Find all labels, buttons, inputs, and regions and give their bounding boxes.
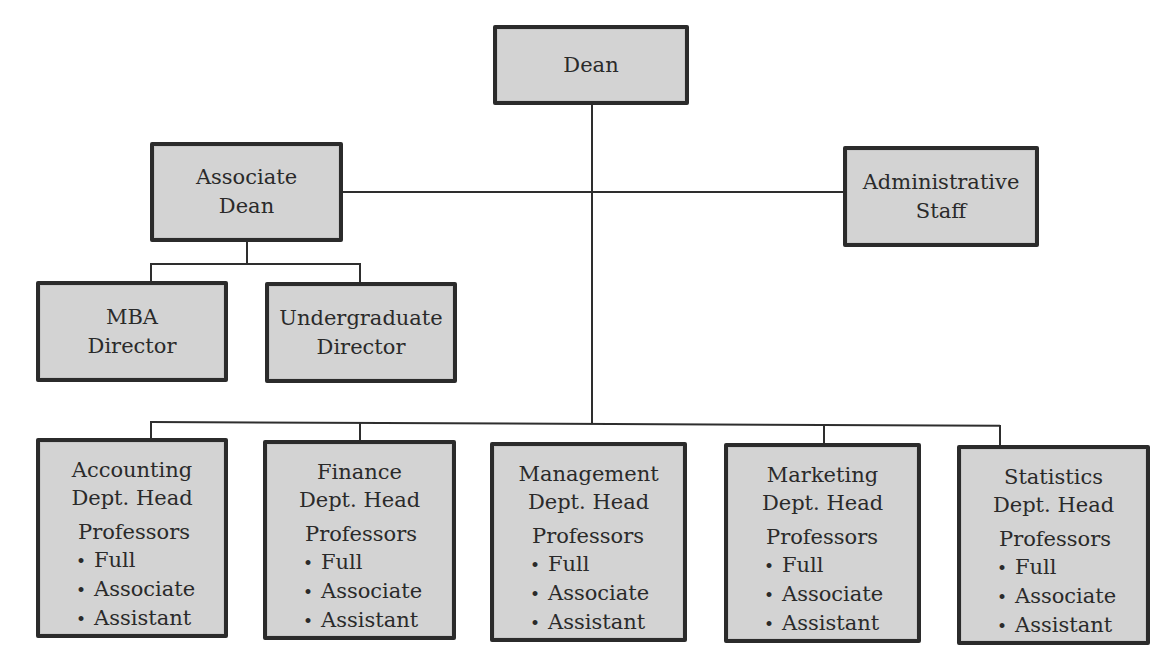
rank-item: Assistant	[764, 609, 883, 638]
node-dept-marketing: Marketing Dept. Head Professors Full Ass…	[724, 443, 921, 643]
rank-list: Full Associate Assistant	[494, 550, 649, 637]
connector-undergrad	[359, 263, 361, 284]
connector-dean-trunk	[591, 104, 593, 424]
node-undergraduate-director: Undergraduate Director	[265, 282, 457, 383]
rank-item: Full	[764, 551, 883, 580]
connector-statistics	[999, 425, 1001, 447]
connector-marketing	[823, 424, 825, 445]
dept-head: Dept. Head	[40, 484, 224, 512]
node-admin-line2: Staff	[916, 197, 966, 226]
node-dept-management: Management Dept. Head Professors Full As…	[490, 442, 687, 642]
node-mba-director: MBA Director	[36, 281, 228, 382]
rank-item: Associate	[76, 575, 195, 604]
dept-staff-label: Professors	[961, 525, 1111, 553]
node-dean-label: Dean	[563, 51, 618, 80]
dept-name: Accounting	[40, 456, 224, 484]
rank-item: Full	[303, 548, 422, 577]
node-undergrad-line1: Undergraduate	[279, 304, 443, 333]
rank-list: Full Associate Assistant	[728, 551, 883, 638]
dept-head: Dept. Head	[267, 486, 452, 514]
node-dean: Dean	[493, 25, 689, 105]
node-dept-finance: Finance Dept. Head Professors Full Assoc…	[263, 440, 456, 640]
rank-list: Full Associate Assistant	[961, 553, 1116, 640]
rank-item: Assistant	[303, 606, 422, 635]
node-undergrad-line2: Director	[317, 333, 406, 362]
connector-mba	[150, 263, 152, 283]
dept-head: Dept. Head	[728, 489, 917, 517]
dept-staff-label: Professors	[494, 522, 644, 550]
connector-directors	[150, 263, 360, 265]
rank-item: Associate	[303, 577, 422, 606]
dept-staff-label: Professors	[267, 520, 417, 548]
dept-staff-label: Professors	[728, 523, 878, 551]
rank-list: Full Associate Assistant	[267, 548, 422, 635]
node-dept-accounting: Accounting Dept. Head Professors Full As…	[36, 438, 228, 638]
rank-list: Full Associate Assistant	[40, 546, 195, 633]
node-admin-line1: Administrative	[863, 168, 1020, 197]
dept-name: Marketing	[728, 461, 917, 489]
node-mba-line1: MBA	[106, 303, 158, 332]
node-mba-line2: Director	[88, 332, 177, 361]
rank-item: Full	[530, 550, 649, 579]
node-associate-dean-line2: Dean	[219, 192, 274, 221]
dept-head: Dept. Head	[961, 491, 1146, 519]
dept-name: Finance	[267, 458, 452, 486]
connector-departments	[150, 421, 1000, 427]
dept-name: Statistics	[961, 463, 1146, 491]
dept-head: Dept. Head	[494, 488, 683, 516]
rank-item: Associate	[530, 579, 649, 608]
node-dept-statistics: Statistics Dept. Head Professors Full As…	[957, 445, 1150, 645]
rank-item: Assistant	[530, 608, 649, 637]
node-associate-dean: Associate Dean	[150, 142, 343, 242]
node-associate-dean-line1: Associate	[196, 163, 297, 192]
rank-item: Full	[76, 546, 195, 575]
rank-item: Associate	[997, 582, 1116, 611]
connector-finance	[359, 422, 361, 442]
rank-item: Associate	[764, 580, 883, 609]
dept-name: Management	[494, 460, 683, 488]
connector-assoc-admin	[341, 191, 845, 193]
connector-assoc-down	[246, 241, 248, 264]
rank-item: Assistant	[997, 611, 1116, 640]
rank-item: Full	[997, 553, 1116, 582]
rank-item: Assistant	[76, 604, 195, 633]
dept-staff-label: Professors	[40, 518, 190, 546]
node-administrative-staff: Administrative Staff	[843, 146, 1039, 247]
